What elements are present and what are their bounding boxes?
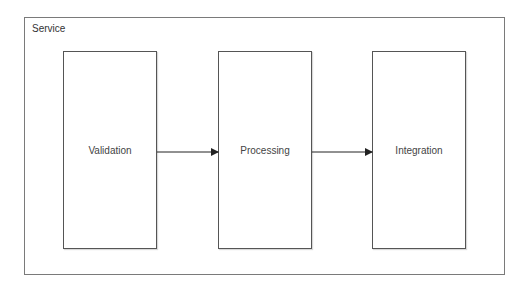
edges-layer <box>0 0 531 291</box>
